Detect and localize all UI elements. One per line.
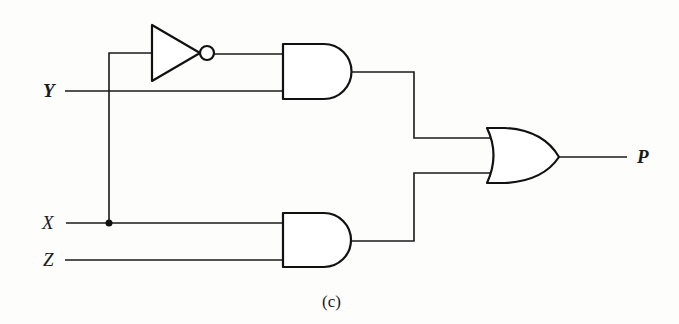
not-gate bbox=[152, 25, 200, 81]
wire-and2-to-or bbox=[351, 173, 492, 241]
wire-x-to-inverter bbox=[109, 53, 152, 223]
and-gate-bottom bbox=[283, 213, 351, 267]
logic-circuit-diagram: Y X Z P (c) bbox=[0, 0, 679, 324]
or-gate bbox=[487, 128, 559, 183]
input-label-z: Z bbox=[43, 250, 54, 269]
wire-and1-to-or bbox=[351, 72, 492, 138]
junction-dot bbox=[106, 220, 113, 227]
output-label-p: P bbox=[637, 147, 649, 166]
input-label-y: Y bbox=[43, 81, 55, 100]
input-label-x: X bbox=[42, 213, 54, 232]
inverter-bubble-icon bbox=[200, 46, 214, 60]
figure-caption: (c) bbox=[322, 293, 341, 310]
circuit-drawing bbox=[0, 0, 679, 324]
and-gate-top bbox=[283, 44, 351, 99]
